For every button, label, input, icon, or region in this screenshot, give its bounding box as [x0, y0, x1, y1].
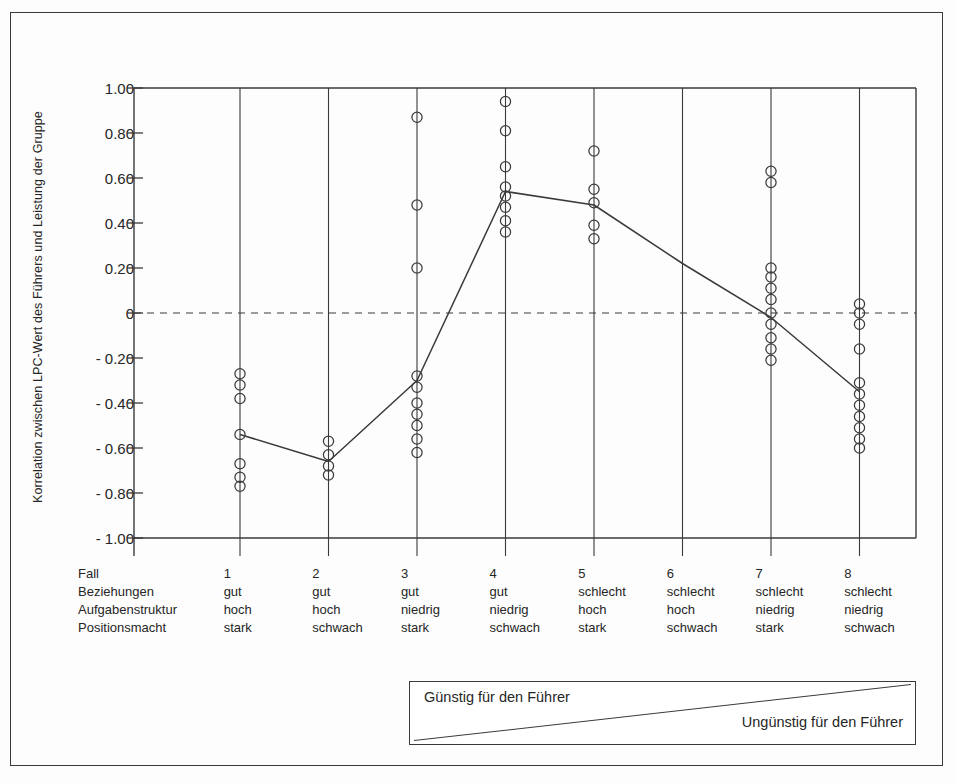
x-attribute-cell: 2 — [312, 566, 401, 584]
x-attribute-cell: gut — [401, 584, 490, 602]
x-attribute-cell: schlecht — [667, 584, 756, 602]
x-attribute-cell: 6 — [667, 566, 756, 584]
chart-figure: Korrelation zwischen LPC-Wert des Führer… — [0, 0, 955, 783]
x-attribute-cell: schwach — [667, 620, 756, 638]
x-attribute-row-header: Aufgabenstruktur — [78, 602, 224, 620]
x-attribute-cell: niedrig — [401, 602, 490, 620]
x-attribute-cell: 4 — [489, 566, 578, 584]
x-attribute-cell: hoch — [667, 602, 756, 620]
figure-page: Korrelation zwischen LPC-Wert des Führer… — [0, 0, 955, 783]
x-attribute-row-header: Beziehungen — [78, 584, 224, 602]
x-attribute-cell: schwach — [312, 620, 401, 638]
x-attribute-row: Fall12345678 — [78, 566, 933, 584]
x-attribute-cell: 8 — [844, 566, 933, 584]
x-attribute-cell: schlecht — [756, 584, 845, 602]
x-attribute-cell: stark — [756, 620, 845, 638]
x-attribute-row-header: Positionsmacht — [78, 620, 224, 638]
x-attribute-cell: 3 — [401, 566, 490, 584]
x-attribute-cell: niedrig — [489, 602, 578, 620]
x-attribute-cell: schlecht — [578, 584, 667, 602]
x-attribute-cell: 1 — [224, 566, 313, 584]
x-attribute-row-header: Fall — [78, 566, 224, 584]
legend-label-favorable: Günstig für den Führer — [424, 689, 570, 705]
x-attribute-cell: stark — [578, 620, 667, 638]
x-attribute-cell: stark — [401, 620, 490, 638]
x-attribute-cell: schlecht — [844, 584, 933, 602]
x-attribute-cell: niedrig — [844, 602, 933, 620]
x-attribute-cell: schwach — [844, 620, 933, 638]
x-attribute-cell: gut — [224, 584, 313, 602]
x-axis-attribute-table: Fall12345678Beziehungengutgutgutgutschle… — [78, 566, 933, 638]
x-attribute-cell: schwach — [489, 620, 578, 638]
favorability-legend: Günstig für den Führer Ungünstig für den… — [409, 681, 916, 745]
plot-area — [0, 0, 955, 783]
legend-label-unfavorable: Ungünstig für den Führer — [742, 714, 903, 730]
x-attribute-cell: 7 — [756, 566, 845, 584]
x-attribute-cell: hoch — [224, 602, 313, 620]
x-attribute-row: Beziehungengutgutgutgutschlechtschlechts… — [78, 584, 933, 602]
x-attribute-cell: hoch — [578, 602, 667, 620]
x-attribute-cell: stark — [224, 620, 313, 638]
x-attribute-row: Aufgabenstrukturhochhochniedrigniedrigho… — [78, 602, 933, 620]
x-attribute-cell: gut — [312, 584, 401, 602]
x-attribute-row: Positionsmachtstarkschwachstarkschwachst… — [78, 620, 933, 638]
x-attribute-cell: niedrig — [756, 602, 845, 620]
x-attribute-cell: 5 — [578, 566, 667, 584]
x-attribute-cell: gut — [489, 584, 578, 602]
x-attribute-cell: hoch — [312, 602, 401, 620]
